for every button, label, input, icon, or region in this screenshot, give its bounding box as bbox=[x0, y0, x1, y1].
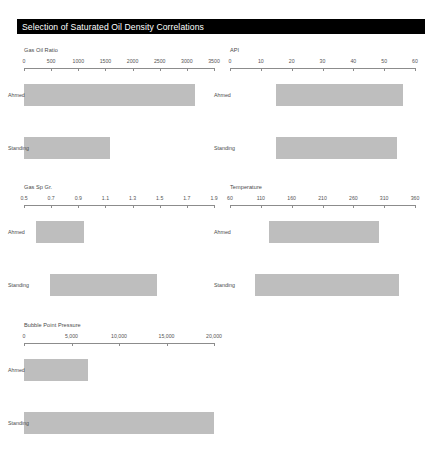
axis-tick bbox=[323, 205, 324, 208]
row-label: Ahmed bbox=[214, 92, 231, 98]
axis-line bbox=[24, 205, 214, 206]
axis-tick bbox=[214, 343, 215, 346]
axis-tick-label: 40 bbox=[350, 58, 356, 64]
axis-tick bbox=[105, 205, 106, 208]
row-label: Standing bbox=[214, 282, 235, 288]
axis-tick-label: 30 bbox=[320, 58, 326, 64]
axis-tick bbox=[78, 205, 79, 208]
axis-tick-label: 60 bbox=[412, 58, 418, 64]
range-bar bbox=[24, 359, 88, 381]
axis-tick-label: 0 bbox=[229, 58, 232, 64]
axis-tick-label: 10 bbox=[258, 58, 264, 64]
axis-tick-label: 500 bbox=[47, 58, 56, 64]
axis-tick-label: 0 bbox=[23, 333, 26, 339]
axis-tick bbox=[105, 68, 106, 71]
axis-tick-label: 1000 bbox=[73, 58, 85, 64]
axis-tick bbox=[51, 68, 52, 71]
axis-tick-label: 210 bbox=[318, 195, 327, 201]
axis-tick bbox=[78, 68, 79, 71]
axis-tick bbox=[187, 205, 188, 208]
axis-tick-label: 360 bbox=[411, 195, 420, 201]
row-label: Standing bbox=[214, 145, 235, 151]
axis-tick bbox=[384, 205, 385, 208]
row-label: Ahmed bbox=[8, 92, 25, 98]
range-bar bbox=[36, 221, 84, 243]
axis-tick bbox=[24, 343, 25, 346]
axis-tick-label: 1500 bbox=[100, 58, 112, 64]
axis-tick-label: 10,000 bbox=[111, 333, 127, 339]
axis-tick-label: 160 bbox=[287, 195, 296, 201]
axis-tick bbox=[214, 205, 215, 208]
row-label: Ahmed bbox=[214, 229, 231, 235]
axis-tick bbox=[24, 205, 25, 208]
axis-tick-label: 1.1 bbox=[102, 195, 109, 201]
axis-tick-label: 310 bbox=[380, 195, 389, 201]
axis-tick bbox=[230, 68, 231, 71]
axis-tick-label: 20,000 bbox=[206, 333, 222, 339]
row-label: Standing bbox=[8, 145, 29, 151]
axis-tick bbox=[51, 205, 52, 208]
row-label: Ahmed bbox=[8, 229, 25, 235]
panel-title: Gas Oil Ratio bbox=[24, 47, 58, 53]
axis-tick-label: 60 bbox=[227, 195, 233, 201]
axis-tick bbox=[187, 68, 188, 71]
range-bar bbox=[24, 137, 110, 159]
axis-tick-label: 1.5 bbox=[156, 195, 163, 201]
axis-tick-label: 0 bbox=[23, 58, 26, 64]
range-bar bbox=[255, 274, 399, 296]
axis-tick bbox=[292, 68, 293, 71]
row-label: Ahmed bbox=[8, 367, 25, 373]
axis-tick-label: 20 bbox=[289, 58, 295, 64]
range-bar bbox=[50, 274, 157, 296]
axis-tick-label: 50 bbox=[381, 58, 387, 64]
axis-tick-label: 1.9 bbox=[210, 195, 217, 201]
axis-tick bbox=[72, 343, 73, 346]
axis-tick bbox=[384, 68, 385, 71]
axis-tick-label: 3500 bbox=[208, 58, 220, 64]
axis-tick-label: 260 bbox=[349, 195, 358, 201]
axis-tick bbox=[160, 205, 161, 208]
range-bar bbox=[276, 137, 396, 159]
range-bar bbox=[24, 84, 195, 106]
axis-tick bbox=[415, 205, 416, 208]
document-title-bar: Selection of Saturated Oil Density Corre… bbox=[17, 19, 425, 34]
panel-title: API bbox=[230, 47, 239, 53]
axis-tick-label: 0.9 bbox=[75, 195, 82, 201]
row-label: Standing bbox=[8, 282, 29, 288]
axis-tick bbox=[353, 205, 354, 208]
axis-tick bbox=[133, 68, 134, 71]
axis-tick bbox=[323, 68, 324, 71]
panel-title: Bubble Point Pressure bbox=[24, 322, 81, 328]
axis-tick bbox=[167, 343, 168, 346]
axis-tick bbox=[415, 68, 416, 71]
axis-tick bbox=[292, 205, 293, 208]
axis-tick-label: 5,000 bbox=[65, 333, 78, 339]
panel-title: Gas Sp Gr. bbox=[24, 184, 52, 190]
range-bar bbox=[276, 84, 402, 106]
axis-tick-label: 1.3 bbox=[129, 195, 136, 201]
panel-title: Temperature bbox=[230, 184, 262, 190]
range-bar bbox=[269, 221, 379, 243]
axis-tick-label: 15,000 bbox=[159, 333, 175, 339]
axis-tick bbox=[214, 68, 215, 71]
axis-tick bbox=[261, 205, 262, 208]
axis-tick bbox=[133, 205, 134, 208]
axis-tick bbox=[24, 68, 25, 71]
axis-tick-label: 110 bbox=[257, 195, 265, 201]
range-bar bbox=[24, 412, 214, 434]
axis-tick bbox=[230, 205, 231, 208]
axis-tick bbox=[160, 68, 161, 71]
axis-tick bbox=[353, 68, 354, 71]
axis-tick-label: 2500 bbox=[154, 58, 166, 64]
axis-line bbox=[24, 68, 214, 69]
axis-tick bbox=[119, 343, 120, 346]
row-label: Standing bbox=[8, 420, 29, 426]
page-title: Selection of Saturated Oil Density Corre… bbox=[22, 22, 204, 32]
axis-tick-label: 3000 bbox=[181, 58, 193, 64]
axis-tick-label: 2000 bbox=[127, 58, 139, 64]
axis-tick bbox=[261, 68, 262, 71]
axis-tick-label: 1.7 bbox=[183, 195, 190, 201]
axis-tick-label: 0.7 bbox=[48, 195, 55, 201]
axis-tick-label: 0.5 bbox=[20, 195, 27, 201]
